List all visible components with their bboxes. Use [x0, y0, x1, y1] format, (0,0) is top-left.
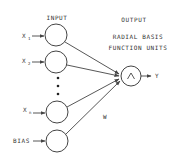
edge-xn-output: [67, 79, 119, 107]
weight-label-w: W: [103, 113, 107, 120]
edge-bias-output: [66, 81, 120, 134]
input-label-base: X: [23, 106, 27, 113]
input-label-base: X: [22, 32, 26, 39]
input-node-x2: [45, 51, 67, 73]
output-layer-title: OUTPUT: [121, 16, 146, 23]
input-node-xn: [46, 101, 68, 123]
input-label-x1: X 1: [22, 32, 31, 41]
input-label-x2: X 2: [22, 57, 31, 66]
rbf-network-diagram: INPUT OUTPUT RADIAL BASIS FUNCTION UNITS…: [0, 0, 184, 162]
output-label-y: Y: [155, 72, 159, 79]
input-label-xn: X n: [23, 106, 32, 115]
output-node: [121, 66, 141, 86]
ellipsis-dots: [57, 77, 60, 96]
rbf-label-line2: FUNCTION UNITS: [109, 44, 168, 51]
input-label-sub: n: [29, 110, 32, 115]
input-node-x1: [45, 24, 67, 46]
input-label-base: X: [22, 57, 26, 64]
input-layer-title: INPUT: [46, 14, 67, 21]
input-node-bias: [46, 130, 68, 152]
input-label-sub: 1: [28, 36, 31, 41]
edge-x2-output: [67, 65, 119, 76]
bias-label: BIAS: [13, 137, 30, 144]
input-label-sub: 2: [28, 61, 31, 66]
rbf-label-line1: RADIAL BASIS: [113, 33, 164, 40]
